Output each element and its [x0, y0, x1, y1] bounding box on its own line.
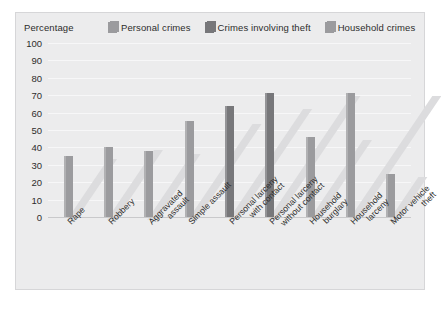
y-axis-tick-label: 50 [31, 125, 42, 136]
bar-rect [104, 147, 113, 217]
y-axis-title: Percentage [24, 22, 74, 33]
legend-label: Household crimes [338, 22, 416, 33]
y-axis-tick-label: 10 [31, 194, 42, 205]
y-axis-tick-label: 60 [31, 107, 42, 118]
bar [225, 106, 234, 217]
legend-label: Crimes involving theft [218, 22, 311, 33]
y-axis-tick-label: 30 [31, 159, 42, 170]
legend-item: Household crimes [325, 22, 416, 33]
bar [386, 174, 395, 218]
bar-rect [225, 106, 234, 217]
chart-legend: Personal crimesCrimes involving theftHou… [108, 20, 415, 34]
bar-rect [64, 156, 73, 217]
bar [346, 93, 355, 217]
y-axis-tick-label: 100 [26, 38, 42, 49]
legend-swatch-icon [205, 22, 214, 33]
bar-rect [386, 174, 395, 218]
legend-label: Personal crimes [121, 22, 191, 33]
y-axis-tick-label: 40 [31, 142, 42, 153]
x-axis-labels: RapeRobberyAggravatedassaultSimple assau… [48, 220, 411, 288]
y-axis-tick-label: 90 [31, 55, 42, 66]
bar [104, 147, 113, 217]
y-axis-tick-label: 20 [31, 177, 42, 188]
legend-swatch-icon [108, 22, 117, 33]
y-axis-tick-label: 70 [31, 90, 42, 101]
y-axis-tick-label: 80 [31, 72, 42, 83]
bar-rect [346, 93, 355, 217]
bar [64, 156, 73, 217]
bar-rect [144, 151, 153, 217]
legend-swatch-icon [325, 22, 334, 33]
bars-layer [48, 43, 411, 217]
legend-item: Personal crimes [108, 22, 191, 33]
y-axis-tick-label: 0 [37, 212, 42, 223]
bar [144, 151, 153, 217]
legend-item: Crimes involving theft [205, 22, 311, 33]
plot-area: 1009080706050403020100 [48, 43, 411, 217]
